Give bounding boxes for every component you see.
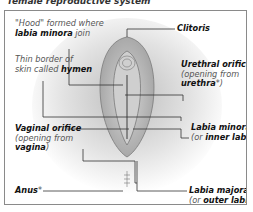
label-hood-after: join xyxy=(73,28,90,38)
label-labia-minora-pre: (or xyxy=(191,132,205,142)
label-clitoris: Clitoris xyxy=(177,24,210,34)
label-labia-minora-bold: inner labia xyxy=(205,132,247,142)
label-labia-majora-pre: (or xyxy=(189,195,203,205)
label-anus: Anus* xyxy=(15,186,42,196)
label-vaginal-orifice-bold: vagina xyxy=(15,142,46,152)
label-urethral-orifice-after: *) xyxy=(216,78,223,88)
label-hymen: Thin border of skin called hymen xyxy=(15,55,92,74)
label-vaginal-orifice: Vaginal orifice (opening from vagina) xyxy=(15,124,81,153)
label-hood-bold: labia minora xyxy=(15,28,73,38)
label-hymen-pre: skin called xyxy=(15,64,61,74)
diagram-frame: "Hood" formed where labia minora join Th… xyxy=(4,10,247,205)
label-hymen-bold: hymen xyxy=(61,64,92,74)
anatomy-illustration xyxy=(5,11,247,205)
label-anus-title: Anus xyxy=(15,185,38,195)
label-labia-majora-bold: outer labia xyxy=(203,195,247,205)
figure-caption: female reproductive system xyxy=(8,0,150,6)
label-vaginal-orifice-after: ) xyxy=(46,142,49,152)
label-labia-minora: Labia minora (or inner labia) xyxy=(191,123,247,142)
label-urethral-orifice-bold: urethra xyxy=(181,78,216,88)
label-anus-mark: * xyxy=(38,185,42,195)
label-clitoris-title: Clitoris xyxy=(177,23,210,33)
label-labia-majora: Labia majora (or outer labia) xyxy=(189,186,247,205)
label-hood: "Hood" formed where labia minora join xyxy=(15,19,104,38)
label-urethral-orifice: Urethral orifice (opening from urethra*) xyxy=(181,60,247,89)
